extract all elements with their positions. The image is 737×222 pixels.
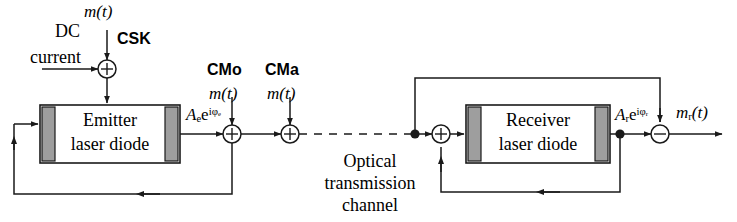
csk-message-label: m(t) bbox=[84, 3, 112, 21]
receiver-field-exponent: iφr bbox=[636, 105, 648, 117]
dc-label-line2: current bbox=[30, 48, 81, 67]
cma-message-label: m(t) bbox=[267, 85, 295, 103]
dc-label-line1: DC bbox=[55, 22, 80, 41]
optical-channel-label-line3: channel bbox=[290, 196, 450, 215]
output-signal-base: m bbox=[676, 103, 688, 122]
receiver-block-label-line1: Receiver bbox=[466, 111, 610, 130]
emitter-block-label-line2: laser diode bbox=[40, 135, 180, 154]
receiver-field-label: Areiφr bbox=[615, 106, 648, 124]
output-signal-arg: (t) bbox=[692, 103, 708, 122]
optical-channel-label-line1: Optical bbox=[290, 152, 450, 171]
emitter-field-exp-base: e bbox=[201, 105, 209, 124]
block-diagram: DC current m(t) CSK CMo m(t) CMa m(t) Em… bbox=[0, 0, 737, 222]
output-signal-label: mr(t) bbox=[676, 104, 708, 122]
channel-junction-dot bbox=[410, 129, 419, 138]
emitter-field-exponent: iφe bbox=[209, 105, 221, 117]
cma-label: CMa bbox=[265, 62, 299, 79]
receiver-block-label-line2: laser diode bbox=[466, 135, 610, 154]
cmo-message-label: m(t) bbox=[209, 85, 237, 103]
csk-label: CSK bbox=[117, 31, 151, 48]
optical-channel-label-line2: transmission bbox=[290, 174, 450, 193]
emitter-field-amplitude: A bbox=[186, 105, 196, 124]
cmo-label: CMo bbox=[207, 62, 242, 79]
emitter-field-label: Aeeiφe bbox=[186, 106, 221, 124]
emitter-block-label-line1: Emitter bbox=[40, 111, 180, 130]
receiver-field-amplitude: A bbox=[615, 105, 625, 124]
receiver-output-junction-dot bbox=[615, 129, 624, 138]
